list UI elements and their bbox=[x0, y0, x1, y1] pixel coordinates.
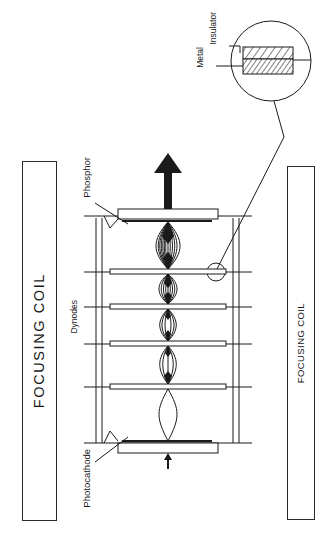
insulator-label: Insulator bbox=[209, 12, 218, 45]
phosphor-screen bbox=[118, 209, 218, 221]
phosphor-label: Phosphor bbox=[82, 157, 92, 198]
photocathode-plate bbox=[118, 441, 218, 453]
metal-label: Metal bbox=[196, 47, 205, 68]
photocathode-support-notch bbox=[104, 431, 118, 443]
electron-bundle-1 bbox=[159, 389, 177, 441]
photocathode-label: Photocathode bbox=[82, 449, 92, 508]
focusing-coil-right: FOCUSING COIL bbox=[287, 166, 315, 520]
focusing-coil-left: FOCUSING COIL bbox=[22, 161, 57, 521]
detail-layer-insulator bbox=[243, 47, 293, 59]
focusing-coil-left-label: FOCUSING COIL bbox=[32, 273, 47, 408]
diagram-canvas: FOCUSING COIL FOCUSING COIL Phosphor Dyn… bbox=[0, 0, 333, 550]
detail-layer-metal bbox=[243, 59, 293, 74]
phosphor-support-notch bbox=[104, 216, 118, 228]
insulator-leader bbox=[229, 46, 240, 53]
callout-leader-line bbox=[217, 101, 284, 269]
light-input-arrow bbox=[164, 453, 172, 469]
light-output-arrow bbox=[154, 153, 182, 209]
dynodes-label: Dynodes bbox=[70, 300, 79, 334]
focusing-coil-right-label: FOCUSING COIL bbox=[296, 303, 306, 383]
